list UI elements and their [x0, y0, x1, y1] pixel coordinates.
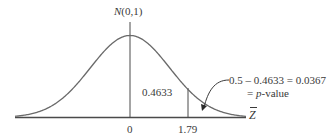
equals-sign: = [247, 87, 256, 99]
annotation-line-2: = p-value [247, 88, 289, 99]
distribution-label: N(0,1) [114, 6, 142, 17]
normal-distribution-figure: N(0,1) 0.4633 0 1.79 Z 0.5 – 0.4633 = 0.… [0, 0, 330, 138]
annotation-line-1: 0.5 – 0.4633 = 0.0367 [229, 75, 326, 86]
figure-canvas [0, 0, 330, 138]
distribution-params: (0,1) [121, 5, 142, 17]
central-area-label: 0.4633 [142, 87, 172, 98]
axis-label-z-bar: Z [249, 109, 256, 121]
overbar [250, 107, 257, 108]
value-word: -value [261, 87, 288, 99]
axis-variable: Z [249, 108, 256, 122]
annotation-arrow [204, 80, 229, 107]
tick-label-zero: 0 [127, 124, 133, 135]
tick-label-critical: 1.79 [178, 124, 197, 135]
